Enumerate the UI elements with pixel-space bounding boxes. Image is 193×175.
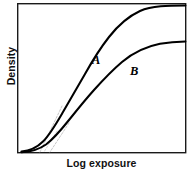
- y-axis-label: Density: [5, 31, 17, 101]
- curve-label-a: A: [92, 54, 100, 67]
- plot-canvas: [0, 0, 193, 175]
- x-axis-label: Log exposure: [17, 157, 186, 169]
- curve-b: [22, 42, 186, 153]
- curve-label-b: B: [130, 65, 138, 78]
- characteristic-curve-figure: Density Log exposure A B: [0, 0, 193, 175]
- plot-frame: [18, 4, 186, 153]
